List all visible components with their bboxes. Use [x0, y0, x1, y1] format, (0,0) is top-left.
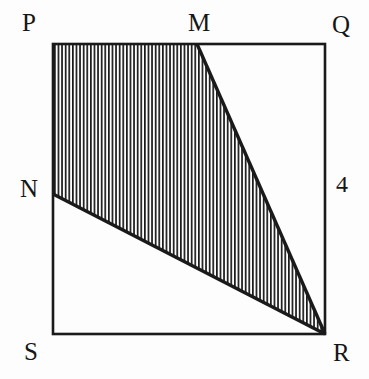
vertex-label-r: R [333, 340, 350, 365]
figure-canvas [0, 0, 369, 379]
vertex-label-s: S [24, 339, 38, 364]
side-measure-label: 4 [336, 172, 348, 196]
vertex-label-q: Q [332, 12, 350, 37]
vertex-label-m: M [188, 10, 210, 35]
vertex-label-p: P [22, 10, 36, 35]
shaded-region-pmrn [53, 44, 325, 334]
geometry-figure: P M Q N S R 4 [0, 0, 369, 379]
vertex-label-n: N [20, 176, 38, 201]
